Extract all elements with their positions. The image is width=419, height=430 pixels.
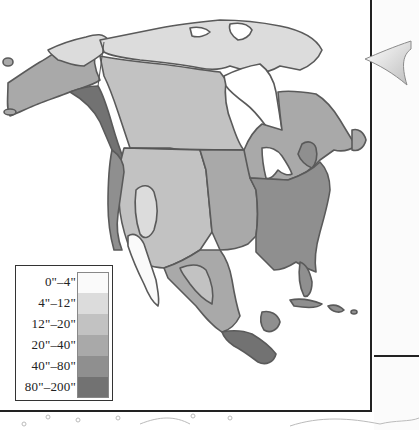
divider [374, 355, 419, 357]
legend-row: 20"–40" [16, 335, 112, 356]
legend-label: 80"–200" [25, 379, 76, 395]
legend-label: 4"–12" [38, 295, 76, 311]
map-frame: 0"–4" 4"–12" 12"–20" 20"–40" 40"–80" 80"… [0, 0, 372, 412]
region-great-basin [135, 186, 157, 238]
legend-swatch [77, 356, 109, 377]
region-central-america [222, 331, 276, 364]
legend-label: 20"–40" [31, 337, 76, 353]
legend-swatch [77, 335, 109, 356]
hudson-bay [224, 64, 282, 131]
legend-label: 0"–4" [45, 274, 76, 290]
legend-row: 0"–4" [16, 272, 112, 293]
legend-label: 40"–80" [31, 358, 76, 374]
left-pointing-arrow-icon [365, 35, 419, 95]
page: 0"–4" 4"–12" 12"–20" 20"–40" 40"–80" 80"… [0, 0, 419, 430]
legend-swatch [77, 293, 109, 314]
region-yucatan [261, 311, 280, 331]
legend-swatch [77, 377, 109, 398]
legend-swatch [77, 272, 109, 293]
legend-row: 4"–12" [16, 293, 112, 314]
precipitation-legend: 0"–4" 4"–12" 12"–20" 20"–40" 40"–80" 80"… [15, 265, 113, 401]
region-eastern-us [250, 162, 330, 272]
legend-row: 40"–80" [16, 356, 112, 377]
region-cuba [290, 299, 322, 307]
region-newfoundland [352, 129, 366, 150]
legend-label: 12"–20" [31, 316, 76, 332]
legend-swatch [77, 314, 109, 335]
region-central-canada [100, 56, 244, 151]
region-hispaniola [328, 305, 344, 312]
legend-row: 12"–20" [16, 314, 112, 335]
legend-row: 80"–200" [16, 377, 112, 398]
decorative-border-strip [0, 412, 419, 430]
